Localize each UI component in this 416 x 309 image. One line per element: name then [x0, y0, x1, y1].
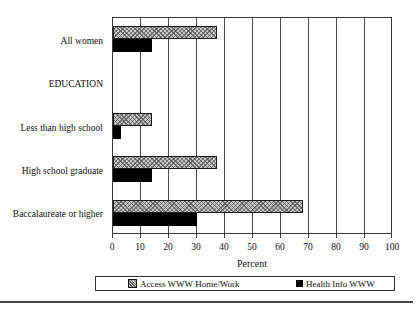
bar-health-info [113, 213, 197, 226]
x-tick-label: 60 [266, 242, 294, 252]
x-tick [336, 234, 337, 238]
x-tick [308, 234, 309, 238]
category-label: EDUCATION [0, 77, 103, 91]
x-tick-label: 50 [238, 242, 266, 252]
legend-item-access-www: Access WWW Home/Work [128, 278, 239, 290]
bar-health-info [113, 169, 152, 182]
x-tick-label: 80 [322, 242, 350, 252]
bar-access-www [113, 156, 217, 169]
x-tick [196, 234, 197, 238]
x-tick-label: 100 [378, 242, 406, 252]
plot-area [112, 17, 392, 234]
x-tick [364, 234, 365, 238]
bar-health-info [113, 39, 152, 52]
x-tick-label: 10 [126, 242, 154, 252]
x-tick [140, 234, 141, 238]
x-tick-label: 0 [98, 242, 126, 252]
legend: Access WWW Home/Work Health Info WWW [95, 276, 395, 291]
bar-access-www [113, 113, 152, 126]
category-label: All women [0, 34, 103, 48]
legend-item-health-info: Health Info WWW [296, 278, 375, 290]
x-tick [252, 234, 253, 238]
category-label: Baccalaureate or higher [0, 207, 103, 221]
gridline [364, 18, 365, 233]
x-tick-label: 40 [210, 242, 238, 252]
bar-access-www [113, 26, 217, 39]
x-tick-label: 30 [182, 242, 210, 252]
x-tick [280, 234, 281, 238]
category-label: Less than high school [0, 121, 103, 135]
legend-label: Health Info WWW [306, 279, 375, 289]
gridline [308, 18, 309, 233]
bottom-rule [0, 301, 413, 303]
x-tick [168, 234, 169, 238]
category-label: High school graduate [0, 164, 103, 178]
x-axis-title: Percent [112, 258, 392, 269]
x-tick-label: 20 [154, 242, 182, 252]
x-tick [112, 234, 113, 238]
hatched-swatch-icon [128, 279, 137, 288]
x-tick [391, 234, 392, 238]
bar-health-info [113, 126, 121, 139]
x-tick-label: 70 [294, 242, 322, 252]
figure: All womenEDUCATIONLess than high schoolH… [0, 0, 416, 309]
legend-label: Access WWW Home/Work [140, 279, 239, 289]
solid-swatch-icon [296, 280, 303, 287]
bar-access-www [113, 200, 303, 213]
gridline [336, 18, 337, 233]
x-tick [224, 234, 225, 238]
x-tick-label: 90 [350, 242, 378, 252]
